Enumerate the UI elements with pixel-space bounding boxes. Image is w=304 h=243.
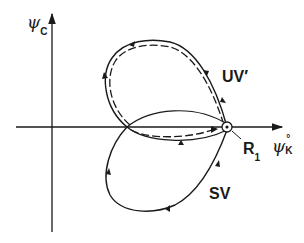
sv-text: SV: [209, 185, 230, 202]
arrow-icon-sv-right: [215, 160, 220, 167]
r1-text: R: [243, 140, 255, 157]
y-axis-label: ψC: [27, 14, 48, 34]
sv-label: SV: [209, 186, 230, 202]
r1-label: R1: [243, 141, 260, 160]
psi-symbol: ψ: [272, 136, 285, 156]
arrow-icon-uv-left: [102, 72, 108, 79]
uv-prime-text: UV′: [222, 68, 248, 85]
x-axis-superscript: °: [286, 134, 290, 144]
y-axis-subscript: C: [40, 26, 47, 37]
r1-marker-dot: [225, 125, 228, 128]
x-axis-label: ψ°K: [272, 138, 295, 156]
upper-connecting-arc: [127, 111, 227, 127]
psi-symbol: ψ: [27, 12, 40, 32]
arrow-icon-sv-bottom: [165, 205, 170, 212]
r1-leader-line: [232, 131, 241, 139]
arrow-icon-uv-right-down: [220, 97, 226, 103]
uv-prime-label: UV′: [222, 69, 248, 85]
phase-diagram: ψC UV′ R1 ψ°K SV: [0, 0, 304, 243]
x-axis-subscript: K: [285, 146, 292, 156]
uv-prime-loop-dashed: [110, 45, 223, 125]
r1-subscript: 1: [255, 152, 261, 163]
